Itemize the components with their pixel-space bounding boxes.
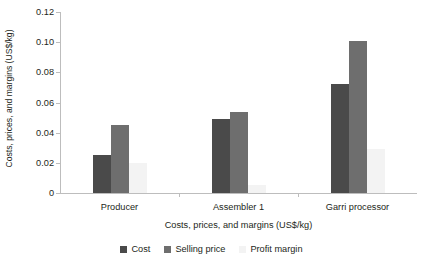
y-axis-tick-label: 0.10: [36, 37, 54, 47]
bar-profit-margin-assembler-1: [248, 185, 266, 193]
y-axis-tick-label: 0.06: [36, 98, 54, 108]
x-axis-separator-tick: [179, 193, 180, 197]
bar-selling-price-garri-processor: [349, 41, 367, 193]
y-axis-tick-mark: [56, 133, 60, 134]
x-axis-line: [60, 193, 417, 194]
x-axis-tick-label: Producer: [60, 200, 179, 214]
x-axis-separator-tick: [298, 193, 299, 197]
y-axis-tick-mark: [56, 42, 60, 43]
legend-label: Profit margin: [250, 243, 302, 255]
bar-chart: Costs, prices, and margins (US$/kg) 00.0…: [0, 0, 423, 264]
legend-label: Cost: [131, 243, 150, 255]
bar-cost-garri-processor: [331, 84, 349, 193]
legend-swatch-icon: [164, 246, 171, 253]
chart-legend: CostSelling priceProfit margin: [0, 241, 423, 257]
y-axis-line: [60, 12, 61, 193]
plot-area: [60, 12, 417, 193]
bar-selling-price-assembler-1: [230, 112, 248, 193]
x-axis-tick-label: Garri processor: [298, 200, 417, 214]
y-axis-tick-mark: [56, 163, 60, 164]
y-axis-tick-label: 0.02: [36, 158, 54, 168]
y-axis-tick-mark: [56, 12, 60, 13]
y-axis-tick-mark: [56, 193, 60, 194]
y-axis-tick-labels: 00.020.040.060.080.100.12: [14, 0, 58, 200]
x-axis-title: Costs, prices, and margins (US$/kg): [60, 219, 417, 231]
bar-profit-margin-garri-processor: [367, 149, 385, 193]
legend-swatch-icon: [239, 246, 246, 253]
legend-swatch-icon: [120, 246, 127, 253]
bar-profit-margin-producer: [129, 163, 147, 193]
x-axis-tick-label: Assembler 1: [179, 200, 298, 214]
legend-label: Selling price: [175, 243, 225, 255]
bar-cost-producer: [93, 155, 111, 193]
y-axis-tick-label: 0: [49, 188, 54, 198]
bar-cost-assembler-1: [212, 119, 230, 193]
y-axis-tick-mark: [56, 103, 60, 104]
y-axis-tick-label: 0.04: [36, 128, 54, 138]
bar-selling-price-producer: [111, 125, 129, 193]
y-axis-tick-label: 0.12: [36, 7, 54, 17]
legend-entry-profit-margin[interactable]: Profit margin: [239, 243, 302, 255]
y-axis-tick-mark: [56, 72, 60, 73]
legend-entry-cost[interactable]: Cost: [120, 243, 150, 255]
x-axis-tick-labels: ProducerAssembler 1Garri processor: [60, 200, 417, 214]
y-axis-tick-label: 0.08: [36, 67, 54, 77]
legend-entry-selling-price[interactable]: Selling price: [164, 243, 225, 255]
